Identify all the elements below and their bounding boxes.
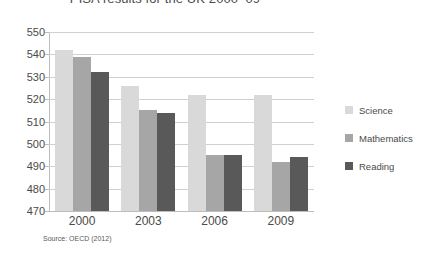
source-note: Source: OECD (2012) (43, 235, 111, 242)
legend-item-mathematics[interactable]: Mathematics (345, 124, 421, 152)
legend-item-science[interactable]: Science (345, 96, 421, 124)
x-axis-tick-label: 2003 (115, 214, 181, 228)
x-axis-tick-label: 2009 (248, 214, 314, 228)
bar-mathematics-2003 (139, 110, 157, 211)
bar-science-2009 (254, 95, 272, 211)
chart-legend: ScienceMathematicsReading (345, 96, 421, 180)
bar-science-2000 (55, 50, 73, 211)
chart-title: PISA results for the UK 2000–09 (0, 0, 330, 6)
bar-mathematics-2009 (272, 162, 290, 211)
bar-group (248, 32, 314, 211)
bar-reading-2000 (91, 72, 109, 211)
legend-label: Reading (359, 161, 394, 172)
bars-layer (49, 32, 314, 211)
bar-mathematics-2006 (206, 155, 224, 211)
bar-reading-2003 (157, 113, 175, 211)
x-axis-tick-label: 2006 (182, 214, 248, 228)
bar-reading-2009 (290, 157, 308, 211)
legend-swatch-icon (345, 106, 353, 114)
gridline (49, 211, 314, 212)
legend-label: Science (359, 105, 393, 116)
legend-item-reading[interactable]: Reading (345, 152, 421, 180)
y-axis-tick-marks (0, 32, 49, 212)
legend-label: Mathematics (359, 133, 413, 144)
bar-group (49, 32, 115, 211)
x-axis-tick-label: 2000 (49, 214, 115, 228)
chart-container: PISA results for the UK 2000–09 47048049… (0, 0, 421, 256)
bar-group (182, 32, 248, 211)
bar-science-2003 (121, 86, 139, 211)
legend-swatch-icon (345, 134, 353, 142)
bar-science-2006 (188, 95, 206, 211)
legend-swatch-icon (345, 162, 353, 170)
bar-mathematics-2000 (73, 57, 91, 211)
x-axis-labels: 2000200320062009 (49, 214, 314, 234)
bar-reading-2006 (224, 155, 242, 211)
bar-group (115, 32, 181, 211)
